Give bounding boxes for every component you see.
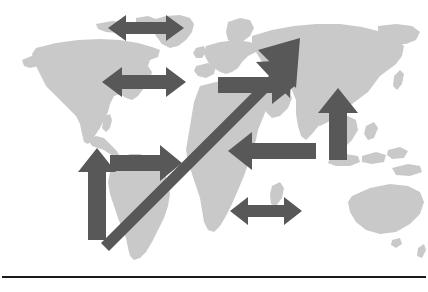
figure-container: World map with directional trade flow ar… — [0, 0, 428, 292]
bottom-rule — [2, 276, 426, 278]
world-map-figure — [0, 0, 428, 292]
